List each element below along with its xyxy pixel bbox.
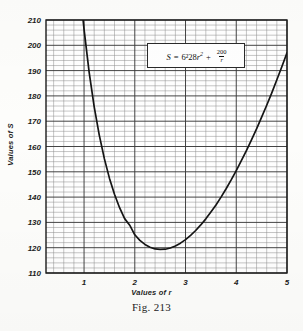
y-axis-label: Values of S (6, 116, 15, 174)
y-tick-label: 170 (28, 117, 42, 126)
x-tick-label: 4 (233, 278, 239, 287)
y-tick-label: 200 (27, 41, 42, 50)
x-tick-label: 3 (183, 278, 188, 287)
x-tick-label: 2 (132, 278, 138, 287)
y-tick-label: 180 (28, 92, 42, 101)
equation-exponent: 2 (200, 51, 203, 57)
equation-equals: = (174, 52, 179, 62)
y-tick-label: 150 (28, 168, 42, 177)
equation-box: S = 6²28 r2 + 200 r (147, 43, 245, 68)
equation-denominator: r (219, 56, 224, 64)
equation-lhs: S (166, 52, 170, 62)
x-axis-label: Values of r (0, 288, 303, 297)
y-tick-label: 110 (28, 269, 41, 278)
x-axis-tick-labels: 12345 (82, 278, 290, 287)
y-axis-tick-labels: 210200190180170160150140130120110 (27, 16, 42, 278)
equation-text: S = 6²28 r2 + 200 r (148, 44, 246, 69)
figure-caption: Fig. 213 (0, 301, 303, 313)
figure-container: 210200190180170160150140130120110 12345 … (0, 0, 303, 331)
equation-plus: + (206, 52, 211, 62)
x-tick-label: 1 (82, 278, 87, 287)
y-tick-label: 130 (28, 218, 42, 227)
equation-coefficient: 6²28 (181, 52, 196, 62)
x-tick-label: 5 (285, 278, 290, 287)
y-tick-label: 190 (28, 67, 42, 76)
y-tick-label: 160 (28, 143, 42, 152)
y-tick-label: 140 (28, 193, 42, 202)
y-tick-label: 210 (27, 16, 42, 25)
equation-fraction: 200 r (216, 49, 228, 63)
y-tick-label: 120 (28, 244, 42, 253)
